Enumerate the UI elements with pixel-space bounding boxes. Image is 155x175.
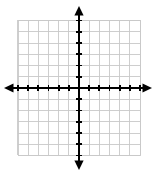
y-axis-arrow-down-icon <box>74 161 83 171</box>
x-axis-arrow-right-icon <box>143 83 153 92</box>
y-axis-arrow-up-icon <box>74 6 83 16</box>
coordinate-grid-figure <box>0 0 155 175</box>
x-axis-arrow-left-icon <box>4 83 14 92</box>
coordinate-grid-svg <box>0 0 155 175</box>
